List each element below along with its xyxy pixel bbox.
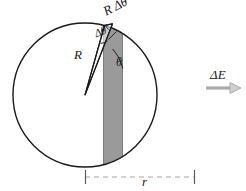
dimension-line-group [85, 170, 195, 184]
label-radius-R: R [74, 48, 82, 61]
diagram-canvas [0, 0, 246, 191]
physics-diagram-figure: R Δθ Δθ R θ ΔE r [0, 0, 246, 191]
label-angle-theta: θ [116, 56, 122, 68]
label-field-increment: ΔE [210, 68, 226, 81]
delta-E-arrow-head [230, 83, 241, 94]
label-half-width-r: r [142, 175, 147, 188]
delta-E-arrow [206, 83, 241, 94]
